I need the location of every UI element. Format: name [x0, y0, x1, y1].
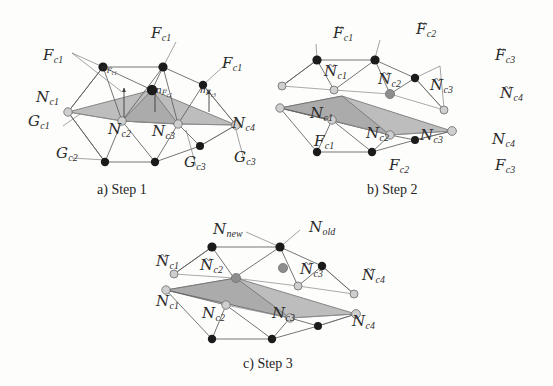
caption-b: b) Step 2 [367, 182, 418, 198]
label-a-G-c2: Gc2 [56, 146, 78, 161]
label-a-F-left: Fc1 [43, 48, 63, 63]
label-b-Ntilde-c3: ~Nc3 [430, 78, 453, 93]
label-c-N-c3: Nc3 [272, 306, 295, 321]
label-a-normal-Fc1: nFc1 [101, 62, 117, 73]
label-b-Ftilde-c3: ~Fc3 [495, 48, 515, 63]
label-c-N-old: Nold [309, 220, 335, 235]
panel-c-leaders [246, 230, 300, 247]
figure-canvas: Fc1 Fc1 Fc1 nFc1 nFc2 nFc3 Nc1 Nc2 Nc3 N… [0, 0, 553, 386]
label-b-Ntilde-c2: ~Nc2 [378, 72, 401, 87]
label-a-N-c4: Nc4 [232, 116, 255, 131]
label-b-Ntilde-c4: ~Nc4 [500, 86, 523, 101]
label-c-Ntilde-c3: ~Nc3 [300, 262, 323, 277]
label-b-F-c1: Fc1 [314, 134, 334, 149]
label-c-Ntilde-c4: ~Nc4 [362, 268, 385, 283]
label-b-F-c2: Fc2 [389, 158, 409, 173]
caption-a: a) Step 1 [97, 182, 147, 198]
label-a-F-top: Fc1 [151, 26, 171, 41]
label-c-N-c4: Nc4 [352, 314, 375, 329]
label-b-Ftilde-c1: ~Fc1 [333, 26, 353, 41]
label-a-G-c1: Gc1 [28, 114, 50, 129]
label-a-N-c3: Nc3 [152, 124, 175, 139]
label-a-normal-Fc2: nFc2 [156, 84, 172, 95]
label-a-G-c3-right: Gc3 [234, 150, 256, 165]
label-a-G-c3: Gc3 [184, 155, 206, 170]
label-b-N-c2: Nc2 [366, 126, 389, 141]
label-b-Ftilde-c2: ~Fc2 [416, 22, 436, 37]
label-b-Ntilde-c1: ~Nc1 [324, 64, 347, 79]
label-a-normal-Fc3: nFc3 [200, 84, 216, 95]
label-b-N-c4: Nc4 [492, 132, 515, 147]
label-c-N-c1: Nc1 [156, 294, 179, 309]
label-c-Ntilde-c1: ~Nc1 [156, 254, 179, 269]
panel-c-graphic [150, 206, 420, 366]
label-a-N-c2: Nc2 [108, 122, 131, 137]
label-c-N-new: Nnew [213, 222, 242, 237]
label-a-F-right: Fc1 [222, 56, 242, 71]
label-c-Ntilde-c2: ~Nc2 [200, 258, 223, 273]
label-c-N-c2: Nc2 [202, 306, 225, 321]
label-b-N-c3: Nc3 [420, 128, 443, 143]
caption-c: c) Step 3 [243, 356, 293, 372]
label-b-F-c3: Fc3 [495, 158, 515, 173]
label-a-N-c1: Nc1 [36, 90, 59, 105]
label-b-N-c1: Nc1 [310, 106, 333, 121]
